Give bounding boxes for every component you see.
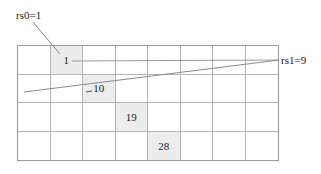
rs1-line-from-cell [72,60,279,61]
short-tick-mark [86,91,92,92]
rs1-slanted-line [24,60,279,92]
rs0-label: rs0=1 [16,9,41,21]
annotation-lines [0,0,321,174]
rs0-leader-line [33,22,60,54]
rs1-label: rs1=9 [281,54,306,66]
